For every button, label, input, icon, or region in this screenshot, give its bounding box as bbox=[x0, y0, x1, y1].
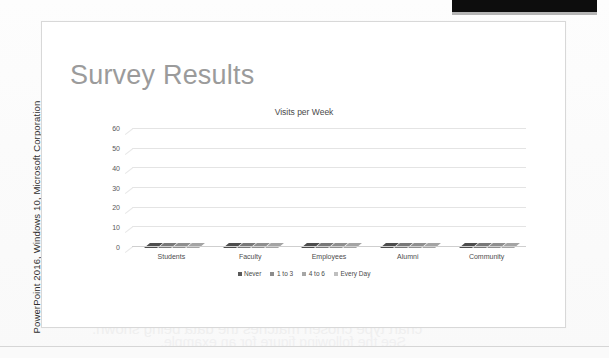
bar-group bbox=[211, 129, 290, 247]
powerpoint-slide: Survey Results Visits per Week 010203040… bbox=[41, 21, 566, 328]
page-bottom-margin bbox=[0, 347, 609, 358]
chart-bar-groups bbox=[132, 129, 526, 247]
chart-baseline bbox=[132, 246, 526, 247]
y-axis-tick-label: 40 bbox=[112, 164, 120, 171]
x-axis-category-label: Employees bbox=[290, 253, 369, 260]
gridline-depth-edge bbox=[125, 246, 133, 253]
bar-group bbox=[132, 129, 211, 247]
chart-category-labels: StudentsFacultyEmployeesAlumniCommunity bbox=[132, 253, 526, 260]
chart-legend: Never1 to 34 to 6Every Day bbox=[74, 270, 534, 277]
page-header-black-bar-shadow bbox=[452, 12, 597, 15]
x-axis-category-label: Faculty bbox=[211, 253, 290, 260]
bar-group bbox=[447, 129, 526, 247]
legend-label: 4 to 6 bbox=[309, 270, 325, 277]
y-axis-tick-label: 10 bbox=[112, 224, 120, 231]
bar-group bbox=[290, 129, 369, 247]
x-axis-category-label: Alumni bbox=[368, 253, 447, 260]
scanned-page: Charting a Hypothesis the information a … bbox=[0, 0, 609, 358]
bar-chart: Visits per Week 0102030405060 StudentsFa… bbox=[74, 107, 534, 307]
bar-group bbox=[368, 129, 447, 247]
y-axis-tick-label: 50 bbox=[112, 144, 120, 151]
y-axis-tick-label: 60 bbox=[112, 125, 120, 132]
x-axis-category-label: Students bbox=[132, 253, 211, 260]
legend-swatch bbox=[334, 272, 338, 276]
figure-credit-caption: PowerPoint 2016, Windows 10, Microsoft C… bbox=[31, 124, 42, 334]
slide-title: Survey Results bbox=[70, 60, 254, 91]
legend-swatch bbox=[238, 272, 242, 276]
legend-swatch bbox=[302, 272, 306, 276]
legend-item: 4 to 6 bbox=[302, 270, 325, 277]
legend-item: Never bbox=[238, 270, 262, 277]
chart-title: Visits per Week bbox=[74, 107, 534, 117]
x-axis-category-label: Community bbox=[447, 253, 526, 260]
y-axis-tick-label: 20 bbox=[112, 204, 120, 211]
legend-label: Every Day bbox=[340, 270, 370, 277]
legend-item: 1 to 3 bbox=[270, 270, 293, 277]
legend-item: Every Day bbox=[334, 270, 370, 277]
y-axis-tick-label: 0 bbox=[116, 244, 120, 251]
legend-label: 1 to 3 bbox=[277, 270, 293, 277]
page-header-black-bar bbox=[452, 0, 597, 12]
y-axis-tick-label: 30 bbox=[112, 184, 120, 191]
legend-label: Never bbox=[244, 270, 261, 277]
legend-swatch bbox=[270, 272, 274, 276]
plot-area: 0102030405060 bbox=[132, 129, 526, 247]
